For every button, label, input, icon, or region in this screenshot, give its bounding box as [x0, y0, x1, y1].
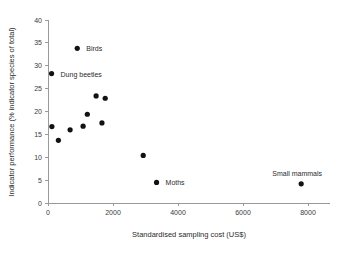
- y-axis-tick-label: 40: [34, 17, 42, 24]
- y-axis-tick-label: 30: [34, 62, 42, 69]
- chart-canvas: 0510152025303540 02000400060008000 Dung …: [0, 0, 362, 253]
- scatter-plot-figure: 0510152025303540 02000400060008000 Dung …: [0, 0, 362, 253]
- data-point-group: [49, 46, 304, 187]
- y-axis-tick-label: 35: [34, 39, 42, 46]
- data-point: [49, 71, 54, 76]
- y-axis-tick-label: 25: [34, 85, 42, 92]
- data-point-label: Birds: [86, 45, 102, 52]
- y-axis-tick-label: 5: [38, 177, 42, 184]
- data-point: [94, 93, 99, 98]
- x-axis-tick-label: 0: [46, 209, 50, 216]
- x-axis-tick-label: 6000: [235, 209, 251, 216]
- x-axis-ticks: 02000400060008000: [46, 203, 316, 216]
- y-axis-tick-label: 15: [34, 131, 42, 138]
- y-axis-title: Indicator performance (% indicator speci…: [7, 27, 16, 197]
- data-point-labels: Dung beetlesBirdsMothsSmall mammals: [61, 45, 323, 186]
- data-point-label: Small mammals: [272, 170, 322, 177]
- y-axis-tick-label: 10: [34, 154, 42, 161]
- y-axis-ticks: 0510152025303540: [34, 17, 48, 207]
- data-point: [154, 180, 159, 185]
- x-axis-tick-label: 2000: [105, 209, 121, 216]
- data-point: [49, 124, 54, 129]
- y-axis-tick-label: 0: [38, 200, 42, 207]
- data-point: [85, 112, 90, 117]
- x-axis-title: Standardised sampling cost (US$): [132, 230, 246, 239]
- data-point: [68, 127, 73, 132]
- data-point: [141, 153, 146, 158]
- y-axis-tick-label: 20: [34, 108, 42, 115]
- x-axis-tick-label: 8000: [300, 209, 316, 216]
- data-point: [56, 138, 61, 143]
- x-axis-tick-label: 4000: [170, 209, 186, 216]
- data-point-label: Dung beetles: [61, 71, 103, 79]
- data-point: [103, 96, 108, 101]
- data-point: [81, 124, 86, 129]
- data-point: [99, 120, 104, 125]
- data-point: [299, 181, 304, 186]
- data-point: [75, 46, 80, 51]
- data-point-label: Moths: [166, 179, 186, 186]
